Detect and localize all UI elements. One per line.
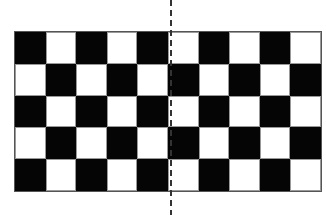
dark-square: [199, 159, 230, 191]
dark-square: [76, 32, 107, 64]
light-square: [107, 96, 138, 128]
dark-square: [76, 159, 107, 191]
dark-square: [46, 127, 77, 159]
dark-square: [229, 64, 260, 96]
light-square: [290, 96, 321, 128]
dark-square: [290, 64, 321, 96]
dark-square: [260, 159, 291, 191]
dark-square: [107, 127, 138, 159]
light-square: [168, 159, 199, 191]
dark-square: [229, 127, 260, 159]
dark-square: [107, 64, 138, 96]
dark-square: [137, 96, 168, 128]
light-square: [15, 127, 46, 159]
dark-square: [15, 159, 46, 191]
dark-square: [260, 96, 291, 128]
dark-square: [260, 32, 291, 64]
dark-square: [168, 127, 199, 159]
light-square: [168, 96, 199, 128]
light-square: [46, 159, 77, 191]
light-square: [290, 159, 321, 191]
light-square: [15, 64, 46, 96]
light-square: [168, 32, 199, 64]
light-square: [290, 32, 321, 64]
dark-square: [199, 96, 230, 128]
light-square: [107, 32, 138, 64]
dark-square: [137, 159, 168, 191]
checkerboard: [14, 31, 322, 192]
dark-square: [15, 32, 46, 64]
light-square: [229, 96, 260, 128]
dark-square: [199, 32, 230, 64]
light-square: [107, 159, 138, 191]
light-square: [199, 127, 230, 159]
light-square: [76, 127, 107, 159]
light-square: [137, 64, 168, 96]
dark-square: [76, 96, 107, 128]
light-square: [46, 96, 77, 128]
dark-square: [137, 32, 168, 64]
light-square: [229, 32, 260, 64]
light-square: [199, 64, 230, 96]
light-square: [229, 159, 260, 191]
dark-square: [15, 96, 46, 128]
light-square: [76, 64, 107, 96]
light-square: [260, 64, 291, 96]
dashed-symmetry-line: [170, 0, 172, 215]
light-square: [46, 32, 77, 64]
light-square: [260, 127, 291, 159]
dark-square: [168, 64, 199, 96]
light-square: [137, 127, 168, 159]
dark-square: [290, 127, 321, 159]
dark-square: [46, 64, 77, 96]
